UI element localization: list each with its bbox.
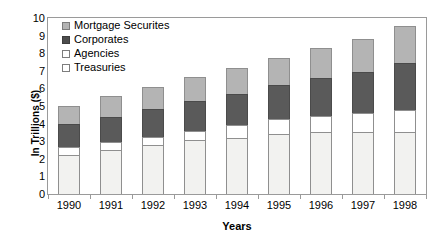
- y-axis-tick-7: 7: [0, 65, 45, 76]
- bar-slot-1998: [384, 18, 426, 194]
- legend-swatch-treasuries-icon: [62, 64, 70, 72]
- bar-segment-agencies-1996[interactable]: [310, 116, 332, 132]
- chart-legend: Mortgage SecuritesCorporatesAgenciesTrea…: [62, 19, 169, 74]
- bar-segment-corporates-1996[interactable]: [310, 78, 332, 116]
- bar-segment-mortgage-1991[interactable]: [100, 96, 122, 116]
- y-axis-tick-10: 10: [0, 13, 45, 24]
- bar-segment-agencies-1997[interactable]: [352, 113, 374, 131]
- bar-segment-corporates-1990[interactable]: [58, 124, 80, 148]
- x-axis-tick-1992: 1992: [132, 199, 174, 211]
- bar-segment-treasuries-1992[interactable]: [142, 145, 164, 194]
- legend-item-agencies[interactable]: Agencies: [62, 47, 169, 60]
- bar-segment-mortgage-1996[interactable]: [310, 48, 332, 78]
- x-axis-tick-1996: 1996: [300, 199, 342, 211]
- bar-segment-corporates-1998[interactable]: [394, 63, 416, 110]
- bar-segment-treasuries-1998[interactable]: [394, 132, 416, 194]
- stacked-bar-1993[interactable]: [184, 77, 206, 194]
- bar-segment-agencies-1993[interactable]: [184, 131, 206, 141]
- bar-slot-1996: [300, 18, 342, 194]
- bar-segment-treasuries-1991[interactable]: [100, 150, 122, 194]
- bar-segment-mortgage-1994[interactable]: [226, 68, 248, 94]
- bar-segment-agencies-1991[interactable]: [100, 142, 122, 150]
- x-axis-tick-labels: 199019911992199319941995199619971998: [48, 199, 426, 211]
- bar-segment-corporates-1994[interactable]: [226, 94, 248, 125]
- bar-segment-agencies-1998[interactable]: [394, 110, 416, 133]
- bar-segment-mortgage-1993[interactable]: [184, 77, 206, 101]
- legend-item-treasuries[interactable]: Treasuries: [62, 61, 169, 74]
- x-axis-tick-1995: 1995: [258, 199, 300, 211]
- bar-segment-mortgage-1992[interactable]: [142, 87, 164, 109]
- bar-slot-1995: [258, 18, 300, 194]
- bar-segment-mortgage-1997[interactable]: [352, 39, 374, 72]
- stacked-bar-1995[interactable]: [268, 58, 290, 194]
- bar-segment-mortgage-1995[interactable]: [268, 58, 290, 85]
- x-axis-tick-1994: 1994: [216, 199, 258, 211]
- stacked-bar-1992[interactable]: [142, 87, 164, 194]
- bar-segment-treasuries-1996[interactable]: [310, 132, 332, 194]
- legend-label: Treasuries: [74, 62, 126, 73]
- legend-label: Mortgage Securites: [74, 20, 169, 31]
- stacked-bar-1990[interactable]: [58, 106, 80, 194]
- x-axis-tick-1993: 1993: [174, 199, 216, 211]
- stacked-bar-1998[interactable]: [394, 26, 416, 194]
- x-axis-tick-1991: 1991: [90, 199, 132, 211]
- bar-segment-corporates-1992[interactable]: [142, 109, 164, 137]
- legend-item-mortgage[interactable]: Mortgage Securites: [62, 19, 169, 32]
- bar-segment-agencies-1994[interactable]: [226, 125, 248, 138]
- bar-slot-1993: [174, 18, 216, 194]
- bar-segment-agencies-1992[interactable]: [142, 137, 164, 145]
- y-axis-tick-8: 8: [0, 48, 45, 59]
- legend-swatch-agencies-icon: [62, 50, 70, 58]
- legend-swatch-corporates-icon: [62, 36, 70, 44]
- bar-segment-mortgage-1998[interactable]: [394, 26, 416, 63]
- bar-segment-treasuries-1993[interactable]: [184, 140, 206, 194]
- bar-segment-mortgage-1990[interactable]: [58, 106, 80, 124]
- legend-label: Agencies: [74, 48, 119, 59]
- y-axis-tick-4: 4: [0, 118, 45, 129]
- bar-segment-agencies-1995[interactable]: [268, 119, 290, 134]
- stacked-bar-1996[interactable]: [310, 48, 332, 194]
- stacked-bar-1997[interactable]: [352, 39, 374, 194]
- y-axis-tick-3: 3: [0, 136, 45, 147]
- stacked-bar-chart: In Trillions ($) 012345678910 1990199119…: [0, 0, 442, 245]
- bar-segment-corporates-1995[interactable]: [268, 85, 290, 119]
- y-axis-tick-6: 6: [0, 83, 45, 94]
- y-axis-tick-9: 9: [0, 30, 45, 41]
- stacked-bar-1991[interactable]: [100, 96, 122, 194]
- y-axis-tick-1: 1: [0, 171, 45, 182]
- bar-slot-1997: [342, 18, 384, 194]
- x-axis-tick-1990: 1990: [48, 199, 90, 211]
- bar-segment-treasuries-1997[interactable]: [352, 132, 374, 194]
- bar-slot-1994: [216, 18, 258, 194]
- stacked-bar-1994[interactable]: [226, 68, 248, 194]
- y-axis-tick-2: 2: [0, 153, 45, 164]
- x-axis-tick-1998: 1998: [384, 199, 426, 211]
- x-axis-tick-1997: 1997: [342, 199, 384, 211]
- legend-item-corporates[interactable]: Corporates: [62, 33, 169, 46]
- bar-segment-agencies-1990[interactable]: [58, 147, 80, 155]
- bar-segment-treasuries-1995[interactable]: [268, 134, 290, 194]
- x-axis-title: Years: [48, 220, 426, 232]
- bar-segment-corporates-1991[interactable]: [100, 117, 122, 143]
- y-axis-tick-0: 0: [0, 189, 45, 200]
- x-tick-mark: [426, 195, 427, 199]
- legend-swatch-mortgage-icon: [62, 22, 70, 30]
- bar-segment-treasuries-1994[interactable]: [226, 138, 248, 194]
- y-axis-tick-5: 5: [0, 101, 45, 112]
- legend-label: Corporates: [74, 34, 128, 45]
- bar-segment-corporates-1993[interactable]: [184, 101, 206, 131]
- bar-segment-corporates-1997[interactable]: [352, 72, 374, 113]
- bar-segment-treasuries-1990[interactable]: [58, 155, 80, 194]
